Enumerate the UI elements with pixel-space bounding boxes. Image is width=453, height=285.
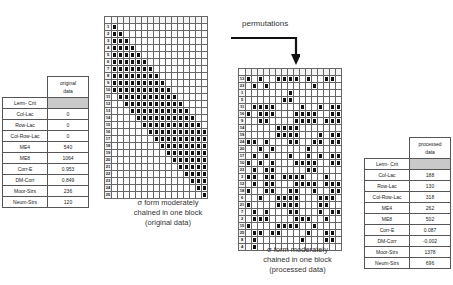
empty-cell: [202, 24, 208, 31]
matrix-row: 18: [105, 143, 208, 150]
filled-cell: [202, 150, 208, 157]
row-label: 11: [105, 94, 112, 101]
caption-line: (original data): [108, 218, 228, 228]
table-row: Neum-Strs120: [3, 197, 89, 208]
criterion-value: 0.849: [48, 175, 89, 186]
matrix-row: 1: [239, 90, 342, 97]
empty-cell: [336, 167, 342, 174]
criterion-label: ME8: [3, 153, 48, 164]
matrix-row: 12: [239, 181, 342, 188]
header-line: processed: [418, 141, 441, 147]
criterion-label: Col-Lac: [3, 109, 48, 120]
table-row: Moor-Strs236: [3, 186, 89, 197]
caption-line: (processed data): [240, 265, 355, 275]
matrix-row: 23: [105, 178, 208, 185]
empty-cell: [202, 45, 208, 52]
matrix-row: 23: [239, 83, 342, 90]
header-line: data: [63, 88, 73, 94]
table-row: Col-Lac0: [3, 109, 89, 120]
caption-line: σ form moderately: [240, 245, 355, 255]
criterion-label: ME4: [3, 142, 48, 153]
permutations-label: permutations: [242, 19, 288, 28]
matrix-row: 8: [239, 237, 342, 244]
criterion-label: Moor-Strs: [3, 186, 48, 197]
matrix-corner: [105, 17, 112, 24]
matrix-row: 21: [239, 202, 342, 209]
processed-data-table: processeddata Lerm- Crit Col-Lac188 Row-…: [364, 137, 451, 269]
table-row: Neum-Strs696: [365, 258, 451, 269]
row-label: 17: [105, 136, 112, 143]
empty-cell: [202, 59, 208, 66]
criterion-label: Neum-Strs: [3, 197, 48, 208]
criterion-value: 502: [410, 214, 451, 225]
row-label: 22: [239, 167, 246, 174]
row-label: 9: [239, 118, 246, 125]
row-label: 19: [105, 150, 112, 157]
table-row: Row-Lac0: [3, 120, 89, 131]
empty-cell: [202, 122, 208, 129]
matrix-row: 19: [105, 150, 208, 157]
row-label: 23: [105, 178, 112, 185]
row-label: 15: [239, 223, 246, 230]
criterion-label: ME8: [365, 214, 410, 225]
empty-cell: [202, 31, 208, 38]
empty-cell: [202, 66, 208, 73]
empty-cell: [202, 38, 208, 45]
filled-cell: [336, 153, 342, 160]
caption-line: chained in one block: [240, 255, 355, 265]
empty-cell: [202, 101, 208, 108]
column-label-cell: [336, 69, 342, 76]
caption-line: σ form moderately: [108, 198, 228, 208]
empty-cell: [336, 174, 342, 181]
criterion-label: DM-Corr: [365, 236, 410, 247]
row-label: 22: [105, 171, 112, 178]
row-label: 17: [239, 153, 246, 160]
table-row: ME4262: [365, 203, 451, 214]
criterion-value: 130: [410, 181, 451, 192]
filled-cell: [202, 185, 208, 192]
criterion-value: 262: [410, 203, 451, 214]
row-label: 20: [105, 157, 112, 164]
table-row: ME4540: [3, 142, 89, 153]
filled-cell: [202, 164, 208, 171]
empty-cell: [202, 87, 208, 94]
empty-cell: [202, 108, 208, 115]
matrix-row: 9: [239, 118, 342, 125]
row-label: 10: [239, 160, 246, 167]
row-label: 12: [105, 101, 112, 108]
matrix-row: 17: [239, 153, 342, 160]
row-label: 14: [105, 115, 112, 122]
filled-cell: [336, 104, 342, 111]
row-label: 7: [105, 66, 112, 73]
table-row: ME81064: [3, 153, 89, 164]
matrix-row: 11: [239, 104, 342, 111]
header-line: data: [425, 149, 435, 155]
original-matrix: 1234567891011121314151617181920212223242…: [104, 16, 208, 199]
row-label: 3: [239, 174, 246, 181]
row-label: 15: [105, 122, 112, 129]
row-label: 4: [105, 45, 112, 52]
row-label: 18: [239, 188, 246, 195]
empty-cell: [336, 202, 342, 209]
empty-cell: [336, 90, 342, 97]
matrix-row: 3: [239, 174, 342, 181]
row-label: 11: [239, 104, 246, 111]
row-label: 1: [239, 90, 246, 97]
empty-cell: [336, 230, 342, 237]
row-label: 19: [239, 132, 246, 139]
original-data-table: originaldata Lerm- Crit Col-Lac0 Row-Lac…: [2, 76, 89, 208]
matrix-row: 16: [239, 111, 342, 118]
matrix-row: 15: [239, 223, 342, 230]
header-line: original: [60, 80, 76, 86]
filled-cell: [202, 143, 208, 150]
matrix-row: 2: [105, 31, 208, 38]
criterion-label: Col-Row-Lac: [3, 131, 48, 142]
filled-cell: [336, 188, 342, 195]
row-label: 5: [105, 52, 112, 59]
matrix-row: 15: [105, 122, 208, 129]
filled-cell: [336, 181, 342, 188]
table-row: Col-Lac188: [365, 170, 451, 181]
row-label: 5: [239, 97, 246, 104]
matrix-row: 3: [105, 38, 208, 45]
filled-cell: [202, 129, 208, 136]
